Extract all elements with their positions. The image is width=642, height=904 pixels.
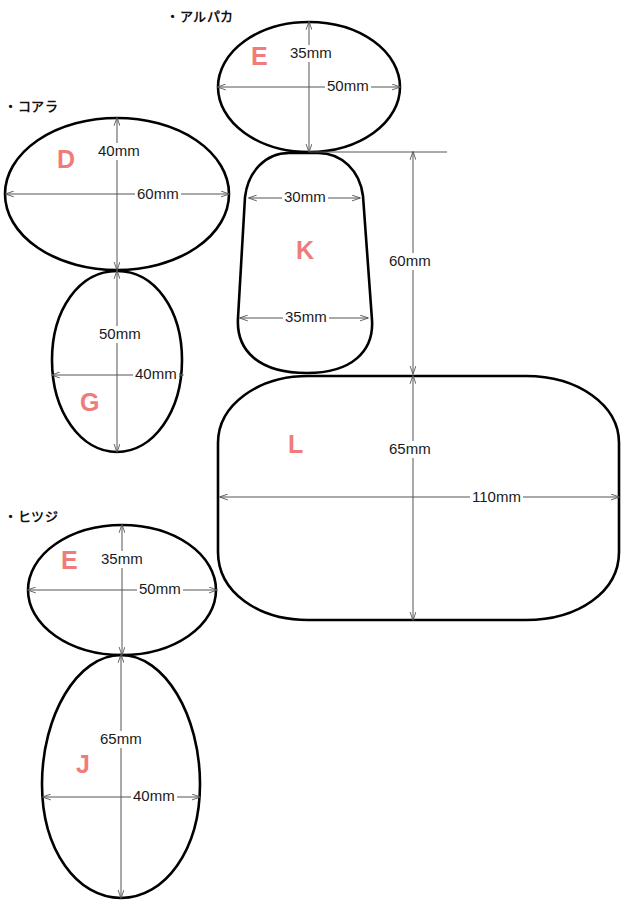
group-label-alpaca: ・アルパカ xyxy=(166,6,234,25)
shape-letter-sheep-j: J xyxy=(76,752,90,777)
dim-text-koala-d-height: 40mm xyxy=(96,143,142,160)
dim-text-sheep-e-height: 35mm xyxy=(99,551,145,568)
dim-text-alpaca-k-height: 60mm xyxy=(387,253,433,270)
dim-text-sheep-e-width: 50mm xyxy=(137,581,183,598)
dim-text-alpaca-l-height: 65mm xyxy=(387,441,433,458)
dim-text-alpaca-e-height: 35mm xyxy=(288,45,334,62)
shape-letter-alpaca-e: E xyxy=(251,44,268,69)
shape-letter-koala-d: D xyxy=(57,147,75,172)
shape-diagram xyxy=(0,0,642,904)
dim-text-koala-g-height: 50mm xyxy=(97,326,143,343)
dim-text-alpaca-k-top: 30mm xyxy=(282,189,328,206)
group-label-sheep: ・ヒツジ xyxy=(4,506,58,525)
dim-text-koala-d-width: 60mm xyxy=(135,186,181,203)
dim-text-sheep-j-width: 40mm xyxy=(131,788,177,805)
shape-outline-alpaca-l xyxy=(218,376,619,620)
dim-text-alpaca-e-width: 50mm xyxy=(325,78,371,95)
pattern-sheet: ・アルパカ ・コアラ ・ヒツジ E K L D G E J 35mm 50mm … xyxy=(0,0,642,904)
shape-letter-alpaca-k: K xyxy=(296,238,314,263)
group-label-koala: ・コアラ xyxy=(4,96,58,115)
shape-letter-alpaca-l: L xyxy=(288,432,303,457)
dim-text-koala-g-width: 40mm xyxy=(133,366,179,383)
dim-text-alpaca-k-bottom: 35mm xyxy=(283,309,329,326)
dim-text-sheep-j-height: 65mm xyxy=(98,731,144,748)
shape-letter-koala-g: G xyxy=(80,390,99,415)
shape-letter-sheep-e: E xyxy=(61,548,78,573)
dim-text-alpaca-l-width: 110mm xyxy=(470,489,523,506)
